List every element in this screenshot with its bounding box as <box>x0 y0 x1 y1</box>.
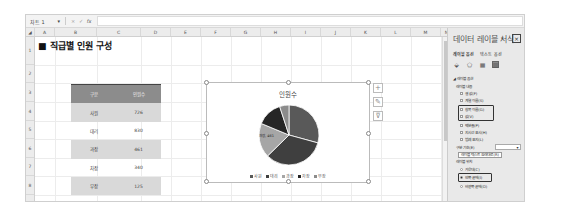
table-cell[interactable]: 340 <box>116 165 161 170</box>
checkbox-label: 백분율(P) <box>465 123 479 128</box>
checkbox[interactable] <box>460 124 463 127</box>
label-options-icon[interactable]: ▥ <box>492 61 499 68</box>
effects-icon[interactable]: ⬠ <box>466 61 473 68</box>
name-box[interactable]: 차트 1 ▾ <box>28 16 62 26</box>
column-header[interactable]: D <box>141 28 171 36</box>
fill-line-icon[interactable]: ⬙ <box>453 61 460 68</box>
table-cell[interactable]: 830 <box>116 128 161 133</box>
pane-category-icons: ⬙ ⬠ ▦ ▥ <box>453 61 499 68</box>
resize-handle[interactable] <box>366 131 371 136</box>
legend-entry[interactable]: 사원 <box>250 173 262 179</box>
resize-handle[interactable] <box>286 80 291 85</box>
checkbox-leader-lines[interactable]: 지시선 표시(H) <box>453 129 525 136</box>
chart-elements-button[interactable]: + <box>373 83 383 93</box>
chart-legend[interactable]: 사원대리과장차장부장 <box>207 173 369 179</box>
row-header[interactable]: 4 <box>26 102 34 121</box>
pane-tabs: 레이블 옵션 텍스트 옵션 <box>453 51 502 57</box>
column-header[interactable]: F <box>201 28 231 36</box>
select-all-corner[interactable]: ◢ <box>26 28 35 36</box>
table-cell[interactable]: 부장 <box>71 183 116 189</box>
checkbox-category-name[interactable]: 항목 이름(G) <box>459 106 493 113</box>
legend-entry[interactable]: 부장 <box>314 173 326 179</box>
column-header[interactable]: G <box>231 28 261 36</box>
separator-dropdown[interactable]: ▾ <box>495 144 521 150</box>
table-cell[interactable]: 사원 <box>71 110 116 116</box>
table-cell[interactable]: 차장 <box>71 165 116 171</box>
resize-handle[interactable] <box>204 131 209 136</box>
enter-icon[interactable]: ✓ <box>77 18 85 24</box>
position-label: 레이블 위치 <box>453 158 525 165</box>
column-header[interactable]: K <box>351 28 381 36</box>
row-header[interactable]: 6 <box>26 139 34 158</box>
column-header[interactable]: M <box>411 28 441 36</box>
checkbox-percentage[interactable]: 백분율(P) <box>453 121 525 128</box>
column-header[interactable]: L <box>381 28 411 36</box>
radio-outside-end[interactable]: 바깥쪽 끝에(O) <box>453 182 525 189</box>
checkbox-label: 지시선 표시(H) <box>465 130 487 135</box>
checkbox-value[interactable]: 값(V) <box>459 113 493 120</box>
label-options-list: ◢ 레이블 옵션 레이블 내용 셀 값(F) 계열 이름(S) 항목 이름(G)… <box>453 75 525 190</box>
table-cell[interactable]: 726 <box>116 110 161 115</box>
resize-handle[interactable] <box>286 179 291 184</box>
pane-options-dropdown[interactable]: ▾ <box>501 35 504 41</box>
column-header[interactable]: C <box>97 28 141 36</box>
insert-function-icon[interactable]: fx <box>85 18 93 24</box>
chart-filters-button[interactable]: ⊽ <box>373 111 383 121</box>
column-header[interactable]: E <box>171 28 201 36</box>
column-header[interactable]: I <box>291 28 321 36</box>
formula-input[interactable] <box>97 16 523 26</box>
size-properties-icon[interactable]: ▦ <box>479 61 486 68</box>
table-cell[interactable]: 461 <box>116 147 161 152</box>
section-header[interactable]: ◢ 레이블 옵션 <box>453 75 525 82</box>
row-header[interactable]: 5 <box>26 121 34 139</box>
legend-entry[interactable]: 차장 <box>298 173 310 179</box>
tab-text-options[interactable]: 텍스트 옵션 <box>480 51 501 57</box>
checkbox-checked[interactable] <box>460 108 463 111</box>
reset-label-text-button[interactable]: 레이블 텍스트 원래대로(R) <box>458 152 502 158</box>
data-label[interactable]: 과장, 461 <box>259 133 274 138</box>
legend-entry[interactable]: 대리 <box>266 173 278 179</box>
radio[interactable] <box>460 185 463 188</box>
table-header[interactable]: 인원수 <box>116 91 161 97</box>
checkbox-cell-value[interactable]: 셀 값(F) <box>453 90 525 97</box>
chart-title[interactable]: 인원수 <box>207 89 369 99</box>
row-header[interactable]: 3 <box>26 83 34 102</box>
column-header[interactable]: J <box>321 28 351 36</box>
highlight-box: 안쪽 끝에(I) <box>458 173 492 182</box>
radio-inside-end[interactable]: 안쪽 끝에(I) <box>459 174 491 181</box>
tab-label-options[interactable]: 레이블 옵션 <box>453 51 474 57</box>
table-cell[interactable]: 125 <box>116 184 161 189</box>
resize-handle[interactable] <box>366 80 371 85</box>
checkbox[interactable] <box>460 99 463 102</box>
checkbox[interactable] <box>460 92 463 95</box>
table-header[interactable]: 구분 <box>71 91 116 97</box>
close-icon[interactable]: × <box>512 34 521 43</box>
radio-center[interactable]: 가운데(C) <box>453 166 525 173</box>
reset-row: 레이블 텍스트 원래대로(R) <box>453 151 525 158</box>
table-cell[interactable]: 대리 <box>71 128 116 134</box>
cancel-icon[interactable]: × <box>69 18 77 24</box>
checkbox-checked[interactable] <box>460 131 463 134</box>
legend-label: 대리 <box>270 173 278 179</box>
checkbox-checked[interactable] <box>460 115 463 118</box>
checkbox[interactable] <box>460 138 463 141</box>
chart-styles-button[interactable]: ✎ <box>373 97 383 107</box>
row-header[interactable]: 8 <box>26 176 34 195</box>
checkbox-series-name[interactable]: 계열 이름(S) <box>453 97 525 104</box>
legend-entry[interactable]: 과장 <box>282 173 294 179</box>
pie-chart[interactable]: 인원수 과장, 461 사원대리과장차장부장 <box>206 82 370 183</box>
checkbox-legend-key[interactable]: 범례 표지(L) <box>453 136 525 143</box>
row-header[interactable]: 2 <box>26 65 34 83</box>
row-header[interactable]: 7 <box>26 158 34 176</box>
resize-handle[interactable] <box>204 80 209 85</box>
row-header[interactable]: 9 <box>26 195 34 202</box>
table-cell[interactable]: 과장 <box>71 146 116 152</box>
column-header[interactable]: A <box>35 28 55 36</box>
resize-handle[interactable] <box>366 179 371 184</box>
row-header[interactable]: 1 <box>26 37 34 65</box>
column-header[interactable]: H <box>261 28 291 36</box>
radio[interactable] <box>460 168 463 171</box>
resize-handle[interactable] <box>204 179 209 184</box>
column-header[interactable]: B <box>55 28 97 36</box>
radio-selected[interactable] <box>460 176 463 179</box>
